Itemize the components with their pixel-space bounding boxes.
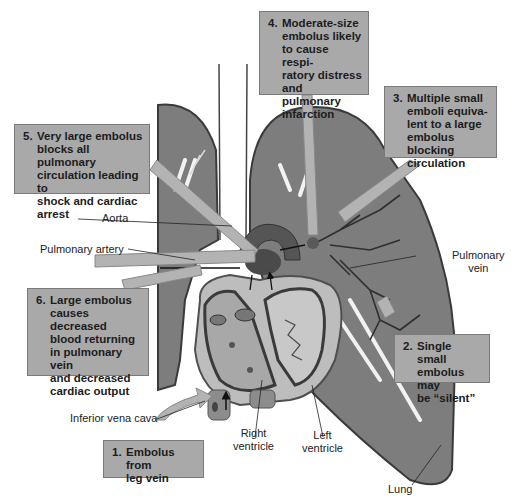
- descending-aorta: [250, 390, 275, 408]
- callout-4-moderate-embolus: 4. Moderate-size embolus likely to cause…: [259, 11, 369, 95]
- callout-3-multiple-small-emboli: 3. Multiple small emboli equiva- lent to…: [384, 86, 497, 158]
- label-inferior-vena-cava: Inferior vena cava: [70, 412, 157, 425]
- callout-1-embolus-from-leg: 1. Embolus from leg vein: [103, 440, 204, 478]
- callout-2-single-small-embolus: 2. Single small embolus may be “silent”: [394, 334, 490, 383]
- callout-text: Large embolus causes decreased blood ret…: [36, 294, 142, 398]
- moderate-embolus: [307, 237, 319, 249]
- embolus-in-heart: [229, 342, 235, 348]
- callout-text: Moderate-size embolus likely to cause re…: [268, 17, 362, 121]
- callout-text: Very large embolus blocks all pulmonary …: [23, 130, 143, 221]
- callout-6-large-embolus: 6. Large embolus causes decreased blood …: [27, 288, 149, 376]
- label-right-ventricle: Right ventricle: [233, 427, 274, 453]
- trachea: [219, 64, 247, 240]
- callout-text: Single small embolus may be “silent”: [403, 340, 483, 405]
- embolus-ivc: [212, 402, 218, 412]
- label-pulmonary-artery: Pulmonary artery: [40, 243, 124, 256]
- label-aorta: Aorta: [102, 212, 128, 225]
- label-left-ventricle: Left ventricle: [302, 429, 343, 455]
- valve-ring: [235, 309, 255, 321]
- label-pulmonary-vein: Pulmonary vein: [452, 249, 505, 275]
- valve-ring-2: [210, 315, 226, 325]
- callout-text: Embolus from leg vein: [112, 446, 197, 485]
- embolus-in-heart-2: [247, 367, 253, 373]
- label-lung: Lung: [388, 483, 412, 496]
- callout-5-very-large-embolus: 5. Very large embolus blocks all pulmona…: [14, 124, 150, 194]
- callout-text: Multiple small emboli equiva- lent to a …: [393, 92, 490, 170]
